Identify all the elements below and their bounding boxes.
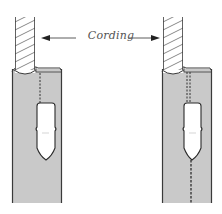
left-panel xyxy=(12,12,62,203)
right-cording-rope xyxy=(162,12,184,78)
right-zipper-slider xyxy=(183,103,202,160)
cording-label: Cording xyxy=(82,29,140,42)
left-arrow-icon xyxy=(41,35,76,41)
left-zipper-slider xyxy=(36,103,56,160)
left-cording-rope xyxy=(14,12,36,78)
right-panel xyxy=(162,12,212,203)
cording-illustration: Cording xyxy=(0,0,222,214)
